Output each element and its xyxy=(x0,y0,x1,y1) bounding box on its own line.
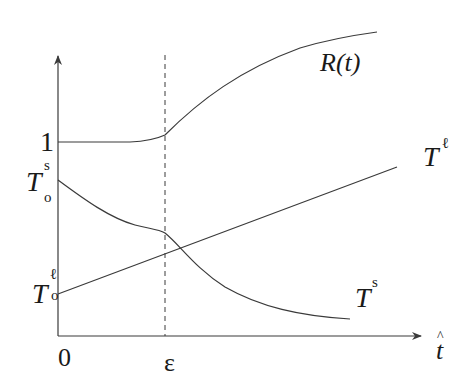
x-axis-label: t xyxy=(436,338,443,364)
diagram-canvas xyxy=(0,0,467,381)
label-t-s: T xyxy=(355,284,371,312)
label-t-o-l: T xyxy=(32,280,48,308)
label-t-o-l-base: T xyxy=(32,278,48,309)
label-t-o-s-base: T xyxy=(26,166,42,197)
label-t-o-s-sub: o xyxy=(44,190,52,205)
label-r-of-t: R(t) xyxy=(320,50,360,76)
label-t-o-l-sub: o xyxy=(51,288,59,303)
x-tick-0: 0 xyxy=(58,345,71,371)
label-t-s-base: T xyxy=(355,282,371,313)
curve-t-l xyxy=(58,167,397,294)
label-t-o-s: T xyxy=(26,168,42,196)
label-t-s-sup: s xyxy=(372,275,378,290)
label-t-l: T xyxy=(423,143,439,171)
label-t-l-sup: ℓ xyxy=(442,136,449,151)
label-t-o-s-sup: s xyxy=(44,158,50,173)
y-tick-1: 1 xyxy=(40,128,54,156)
label-t-l-base: T xyxy=(423,141,439,172)
x-tick-epsilon: ε xyxy=(164,350,175,376)
label-t-o-l-sup: ℓ xyxy=(50,267,57,282)
